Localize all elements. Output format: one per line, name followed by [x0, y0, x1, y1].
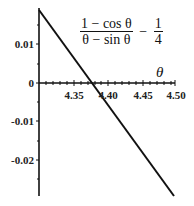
x-tick-label: 4.45 — [133, 89, 153, 101]
formula-denominator: θ − sin θ — [80, 32, 133, 47]
x-tick-label: 4.35 — [64, 89, 84, 101]
chart: 0.01 0 -0.01 -0.02 4.35 4.40 4.45 4.50 θ… — [0, 0, 194, 206]
formula-fraction: 1 − cos θ θ − sin θ — [80, 16, 133, 47]
x-tick-label: 4.40 — [98, 89, 118, 101]
x-tick-label: 4.50 — [166, 89, 186, 101]
constant-denominator: 4 — [154, 32, 163, 47]
formula-minus: − — [139, 24, 147, 39]
y-tick-label: -0.02 — [11, 154, 34, 166]
constant-numerator: 1 — [154, 16, 163, 32]
formula-constant: 1 4 — [154, 16, 163, 47]
x-axis-label: θ — [156, 64, 163, 81]
formula-annotation: 1 − cos θ θ − sin θ − 1 4 — [80, 16, 163, 47]
y-tick-label: -0.01 — [11, 115, 34, 127]
y-tick-label: 0 — [29, 77, 35, 89]
formula-numerator: 1 − cos θ — [80, 16, 133, 32]
y-tick-label: 0.01 — [15, 38, 34, 50]
